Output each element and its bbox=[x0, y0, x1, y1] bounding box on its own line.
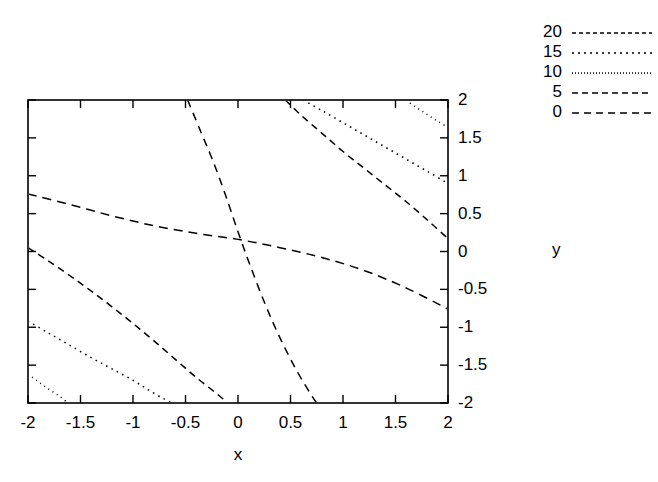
legend-label-20: 20 bbox=[522, 22, 562, 42]
x-tick-label: 2 bbox=[428, 413, 468, 433]
x-tick-label: 0 bbox=[218, 413, 258, 433]
y-tick-label: -2 bbox=[458, 393, 473, 413]
x-tick-label: 0.5 bbox=[271, 413, 311, 433]
contour-curve-level-10 bbox=[28, 248, 228, 403]
contour-curve-level-15 bbox=[303, 100, 448, 183]
y-tick-label: 1.5 bbox=[458, 128, 482, 148]
x-tick-label: 1.5 bbox=[376, 413, 416, 433]
legend-label-0: 0 bbox=[522, 102, 562, 122]
x-tick-label: -2 bbox=[8, 413, 48, 433]
y-axis-title: y bbox=[552, 240, 561, 260]
y-tick-label: 0.5 bbox=[458, 204, 482, 224]
y-tick-label: 1 bbox=[458, 166, 467, 186]
x-tick-label: -0.5 bbox=[166, 413, 206, 433]
contour-curve-level-20 bbox=[406, 100, 448, 127]
y-tick-label: -1 bbox=[458, 317, 473, 337]
x-tick-label: 1 bbox=[323, 413, 363, 433]
contour-curve-level-20 bbox=[28, 374, 68, 403]
legend-label-15: 15 bbox=[522, 42, 562, 62]
legend-label-5: 5 bbox=[522, 82, 562, 102]
x-tick-label: -1.5 bbox=[61, 413, 101, 433]
contour-plot-figure: -2-1.5-1-0.500.511.5221.510.50-0.5-1-1.5… bbox=[0, 0, 658, 482]
x-tick-label: -1 bbox=[113, 413, 153, 433]
y-tick-label: 0 bbox=[458, 242, 467, 262]
y-tick-label: 2 bbox=[458, 90, 467, 110]
y-tick-label: -1.5 bbox=[458, 355, 487, 375]
contour-curve-level-15 bbox=[28, 321, 173, 403]
legend-label-10: 10 bbox=[522, 62, 562, 82]
y-tick-label: -0.5 bbox=[458, 279, 487, 299]
x-axis-title: x bbox=[218, 445, 258, 465]
